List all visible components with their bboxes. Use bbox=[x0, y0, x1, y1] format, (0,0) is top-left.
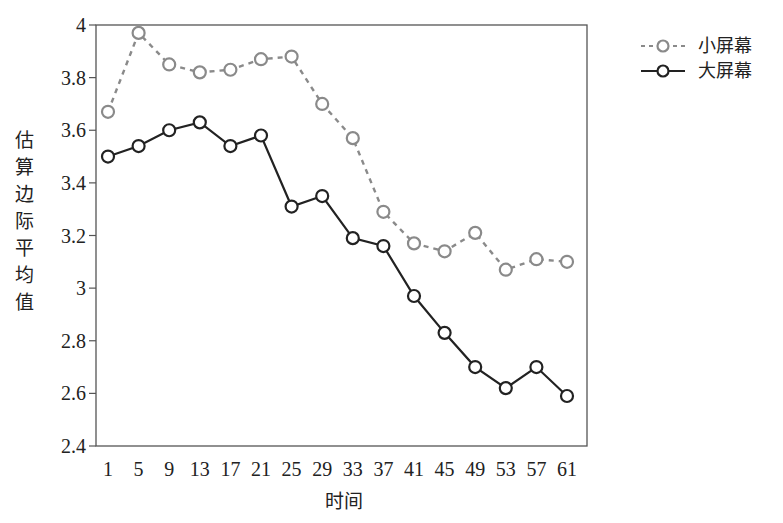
y-axis-title-char: 值 bbox=[15, 291, 34, 313]
y-tick-label: 3.4 bbox=[61, 172, 86, 194]
data-point-marker bbox=[347, 132, 359, 144]
x-tick-label: 25 bbox=[282, 458, 302, 480]
x-tick-label: 61 bbox=[557, 458, 577, 480]
data-point-marker bbox=[316, 98, 328, 110]
y-tick-label: 3.8 bbox=[61, 67, 86, 89]
data-point-marker bbox=[255, 53, 267, 65]
y-tick-label: 3.2 bbox=[61, 225, 86, 247]
y-axis-title-char: 估 bbox=[15, 129, 34, 151]
y-tick-label: 3 bbox=[76, 277, 86, 299]
data-point-marker bbox=[102, 106, 114, 118]
y-tick-label: 2.4 bbox=[61, 435, 86, 457]
data-point-marker bbox=[530, 253, 542, 265]
data-point-marker bbox=[469, 361, 481, 373]
data-point-marker bbox=[439, 245, 451, 257]
data-point-marker bbox=[286, 51, 298, 63]
x-tick-label: 13 bbox=[190, 458, 210, 480]
y-axis-title-char: 边 bbox=[15, 183, 34, 205]
data-point-marker bbox=[469, 227, 481, 239]
data-point-marker bbox=[194, 66, 206, 78]
x-tick-label: 57 bbox=[526, 458, 546, 480]
legend-label: 大屏幕 bbox=[698, 60, 752, 81]
x-axis: 15913172125293337414549535761 bbox=[103, 458, 577, 480]
x-tick-label: 9 bbox=[164, 458, 174, 480]
legend-item-small-screen: 小屏幕 bbox=[641, 35, 752, 56]
data-point-marker bbox=[102, 151, 114, 163]
data-point-marker bbox=[347, 232, 359, 244]
x-tick-label: 33 bbox=[343, 458, 363, 480]
y-tick-label: 3.6 bbox=[61, 119, 86, 141]
y-tick-label: 4 bbox=[76, 14, 86, 36]
data-point-marker bbox=[377, 240, 389, 252]
x-tick-label: 49 bbox=[465, 458, 485, 480]
data-point-marker bbox=[194, 116, 206, 128]
data-point-marker bbox=[255, 130, 267, 142]
data-point-marker bbox=[439, 327, 451, 339]
data-point-marker bbox=[133, 140, 145, 152]
y-tick-label: 2.8 bbox=[61, 330, 86, 352]
x-tick-label: 17 bbox=[220, 458, 240, 480]
legend-swatch-large-screen-icon bbox=[641, 66, 685, 77]
data-point-marker bbox=[561, 256, 573, 268]
y-axis: 2.42.62.833.23.43.63.84 bbox=[61, 14, 96, 457]
data-point-marker bbox=[408, 290, 420, 302]
y-tick-label: 2.6 bbox=[61, 382, 86, 404]
x-axis-title: 时间 bbox=[325, 490, 363, 512]
y-axis-title-char: 均 bbox=[15, 264, 34, 286]
y-axis-title: 估算边际平均值 bbox=[15, 129, 34, 313]
legend-label: 小屏幕 bbox=[698, 35, 752, 56]
x-tick-label: 37 bbox=[373, 458, 393, 480]
series-small-screen bbox=[102, 27, 573, 276]
series-layer bbox=[102, 27, 573, 402]
data-point-marker bbox=[530, 361, 542, 373]
data-point-marker bbox=[500, 382, 512, 394]
legend: 小屏幕 大屏幕 bbox=[641, 35, 752, 81]
x-tick-label: 29 bbox=[312, 458, 332, 480]
data-point-marker bbox=[224, 64, 236, 76]
x-tick-label: 5 bbox=[134, 458, 144, 480]
line-chart: 2.42.62.833.23.43.63.84 1591317212529333… bbox=[0, 0, 783, 523]
data-point-marker bbox=[163, 58, 175, 70]
x-tick-label: 53 bbox=[496, 458, 516, 480]
x-tick-label: 41 bbox=[404, 458, 424, 480]
x-tick-label: 21 bbox=[251, 458, 271, 480]
x-tick-label: 1 bbox=[103, 458, 113, 480]
y-axis-title-char: 平 bbox=[15, 237, 34, 259]
data-point-marker bbox=[316, 190, 328, 202]
data-point-marker bbox=[286, 201, 298, 213]
data-point-marker bbox=[133, 27, 145, 39]
series-large-screen bbox=[102, 116, 573, 402]
data-point-marker bbox=[408, 237, 420, 249]
data-point-marker bbox=[163, 124, 175, 136]
legend-item-large-screen: 大屏幕 bbox=[641, 60, 752, 81]
y-axis-title-char: 算 bbox=[15, 156, 34, 178]
legend-swatch-small-screen-icon bbox=[641, 41, 685, 52]
data-point-marker bbox=[500, 264, 512, 276]
data-point-marker bbox=[377, 206, 389, 218]
data-point-marker bbox=[224, 140, 236, 152]
data-point-marker bbox=[561, 390, 573, 402]
x-tick-label: 45 bbox=[435, 458, 455, 480]
y-axis-title-char: 际 bbox=[15, 210, 34, 232]
